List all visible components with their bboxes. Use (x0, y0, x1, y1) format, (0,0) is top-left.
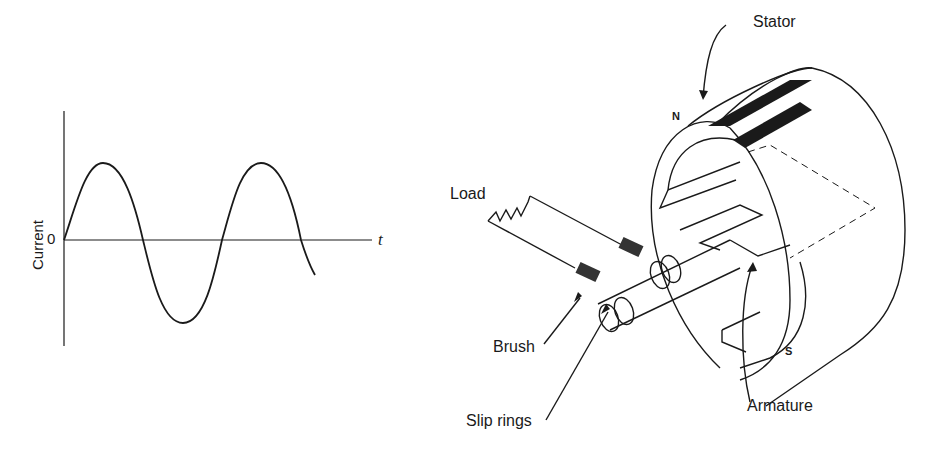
load-label: Load (450, 186, 486, 202)
current-time-plot: 0 t Current (0, 0, 420, 454)
brush-label: Brush (493, 339, 535, 355)
south-pole-label: S (785, 346, 792, 357)
armature-arrowhead (747, 262, 757, 272)
origin-label: 0 (47, 231, 55, 246)
armature-leader (743, 266, 752, 402)
slip-rings-label: Slip rings (466, 413, 532, 429)
load-wire-top (530, 196, 622, 245)
y-axis-label: Current (30, 220, 45, 270)
sine-wave-graph (0, 0, 420, 454)
armature-label: Armature (747, 398, 813, 414)
x-axis-label: t (378, 231, 383, 248)
brush-1 (575, 262, 600, 282)
stator-leader (703, 25, 726, 98)
stator-front-rim (651, 122, 730, 368)
current-waveform (64, 163, 315, 323)
stator-body (717, 68, 905, 406)
stator-arrowhead (699, 90, 708, 100)
slip-ring-1 (596, 302, 622, 334)
slip-rings-leader (546, 312, 608, 420)
stator-label: Stator (753, 14, 796, 30)
armature-loop (680, 205, 762, 250)
ac-generator-diagram: Stator Load Brush Slip rings Armature N … (420, 0, 932, 454)
brush-2 (618, 237, 643, 257)
load-resistor (488, 196, 530, 221)
load-wire-bottom (488, 221, 575, 268)
shaft (598, 240, 730, 304)
north-pole-label: N (672, 111, 680, 122)
brush-leader (544, 298, 580, 344)
generator-illustration (420, 0, 932, 454)
